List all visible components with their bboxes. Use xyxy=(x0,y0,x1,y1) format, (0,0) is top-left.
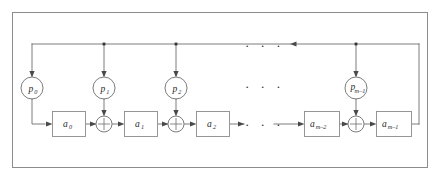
stage-block-am2-subscript: m–2 xyxy=(316,123,327,130)
stage-block-am2-label: a xyxy=(310,119,315,129)
ellipsis-middle: · · · xyxy=(245,79,285,94)
tap-node-p1-subscript: 1 xyxy=(106,88,109,95)
tap-node-p2[interactable]: p 2 xyxy=(165,77,187,99)
stage-block-a0-label: a xyxy=(63,119,68,129)
figure-root: p 0 p 1 p 2 p m–1 xyxy=(0,0,440,180)
bus-junction-dot-pm1 xyxy=(355,43,358,46)
stage-block-a1[interactable]: a 1 xyxy=(125,112,158,137)
ellipsis-top: · · · xyxy=(245,38,285,53)
tap-node-pm1[interactable]: p m–1 xyxy=(345,77,367,99)
adder-xor0[interactable] xyxy=(96,116,112,132)
tap-node-p1-label: p xyxy=(100,84,106,94)
stage-block-am1-subscript: m–1 xyxy=(388,123,399,130)
stage-block-a1-subscript: 1 xyxy=(141,123,144,130)
lfsr-diagram: p 0 p 1 p 2 p m–1 xyxy=(0,0,440,180)
tap-node-p1[interactable]: p 1 xyxy=(93,77,115,99)
stage-block-a2[interactable]: a 2 xyxy=(197,112,230,137)
stage-block-am1-label: a xyxy=(382,119,387,129)
ellipsis-group: · · · · · · · · · xyxy=(245,38,285,132)
stage-block-am2[interactable]: a m–2 xyxy=(305,112,340,137)
stage-block-am1[interactable]: a m–1 xyxy=(377,112,412,137)
adder-xor2[interactable] xyxy=(348,116,364,132)
bus-junction-dot-p2 xyxy=(175,43,178,46)
tap-node-p2-subscript: 2 xyxy=(178,88,181,95)
tap-node-p0[interactable]: p 0 xyxy=(21,77,43,99)
ellipsis-data: · · · xyxy=(245,117,285,132)
tap-node-p2-label: p xyxy=(172,84,178,94)
tap-node-p0-label: p xyxy=(28,84,34,94)
stage-block-a2-label: a xyxy=(207,119,212,129)
adder-xor1[interactable] xyxy=(168,116,184,132)
stage-block-a2-subscript: 2 xyxy=(213,123,216,130)
tap-node-pm1-subscript: m–1 xyxy=(355,87,366,94)
stage-block-a0[interactable]: a 0 xyxy=(53,112,86,137)
bus-junction-dot-p1 xyxy=(103,43,106,46)
stage-block-a1-label: a xyxy=(135,119,140,129)
